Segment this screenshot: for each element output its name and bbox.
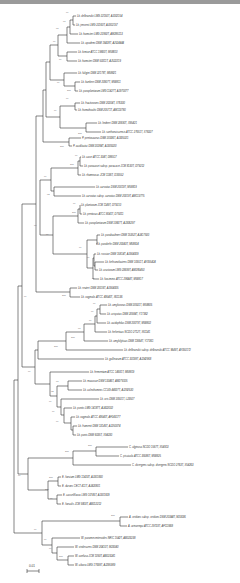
taxon-label: Lb. pentosus ATCC 8041T, D79211 xyxy=(83,213,124,216)
bootstrap-value: 100 xyxy=(78,132,82,134)
taxon-label: C. divergens subsp. divergens NCDO 2763T… xyxy=(132,464,193,467)
taxon-label: W. paramesenteroides NRIC 1542T, AB02323… xyxy=(81,537,135,540)
bootstrap-value: 97 xyxy=(56,380,58,382)
taxon-label: Lb. hamsteri LMG 22950T, AM285113 xyxy=(79,33,123,36)
taxon-label: P. pentosaceus DSM 20336T, AJ305321 xyxy=(82,137,128,140)
bootstrap-value: 93 xyxy=(47,193,49,195)
bootstrap-value: 99 xyxy=(53,40,55,42)
bootstrap-value: 99 xyxy=(73,202,75,204)
bootstrap-value: 99 xyxy=(93,302,95,304)
bootstrap-value: 100 xyxy=(65,450,69,452)
bootstrap-value: 99 xyxy=(34,224,36,226)
taxon-label: Lb. sanfranciscensis ATCC 27651T, X76327 xyxy=(102,131,153,134)
taxon-label: Lb. parabuchneri DSM 15352T, AJ417500 xyxy=(101,234,149,237)
taxon-label: Lb. kefiranofaciens DSM 10551T, AY055424 xyxy=(105,261,156,264)
taxon-label: Lb. oris DSM 20501T, L23507 xyxy=(100,398,134,401)
bootstrap-value: 99 xyxy=(87,256,89,258)
taxon-label: Lb. amylolyticus DSM 11664T, Y17361 xyxy=(109,340,153,343)
bootstrap-value: 100 xyxy=(45,488,49,490)
taxon-label: Lb. crispatus DSM 20584T, Y17362 xyxy=(107,313,148,316)
bootstrap-value: 99 xyxy=(49,547,51,549)
taxon-label: Lb. helveticus NCDO 2712T, X61141 xyxy=(108,331,150,334)
bootstrap-value: 98 xyxy=(56,27,58,29)
taxon-label: Lb. jensenii LMG 22160T, AJ002157 xyxy=(76,24,118,27)
bootstrap-value: 99 xyxy=(49,400,51,402)
bootstrap-value: 100 xyxy=(111,514,115,516)
taxon-label: Lb. delbrueckii LMG 22150T, AJ002154 xyxy=(77,15,122,18)
bootstrap-value: 99 xyxy=(44,538,46,540)
taxon-label: Lb. curvatus DSM 20019T, M58819 xyxy=(96,186,137,189)
bootstrap-value: 99 xyxy=(89,319,91,321)
bootstrap-value: 99 xyxy=(34,528,36,530)
bootstrap-value: 99 xyxy=(66,11,68,13)
bootstrap-value: 97 xyxy=(78,327,80,329)
taxon-label: Lb. curvatus subsp. curvatus DSM 20019T,… xyxy=(82,195,144,198)
taxon-label: Lb. delbrueckii subsp. delbrueckii ATCC … xyxy=(124,349,191,352)
taxon-label: Lb. fuligini DSM 22178T, M58821 xyxy=(78,72,116,75)
taxon-label: C. piscicola ATCC 35586T, M58825 xyxy=(120,455,161,458)
taxon-label: Lb. farciminis ATCC 29644T, M58817 xyxy=(100,278,143,281)
taxon-label: Lb. pontis LMG 14187T, AJ422032 xyxy=(73,407,113,410)
bootstrap-value: 100 xyxy=(71,336,75,338)
taxon-label: Lb. rhamnosus JCM 1136T, D16552 xyxy=(82,174,123,177)
bootstrap-value: 99 xyxy=(66,97,68,99)
bootstrap-value: 99 xyxy=(44,175,46,177)
bootstrap-value: 99 xyxy=(57,81,59,83)
bootstrap-value: 99 xyxy=(79,246,81,248)
taxon-label: Lb. fermentum ATCC 14931T, M58819 xyxy=(90,371,134,374)
scale-bar-label: 0.01 xyxy=(29,564,35,568)
taxon-label: Lb. lindneri DSM 20690T, X95421 xyxy=(98,122,137,125)
taxon-label: W. confusa JCM 1093T, AB023241 xyxy=(75,555,115,558)
bootstrap-value: 100 xyxy=(60,145,64,147)
taxon-label: Lb. amylovorus DSM 20531T, M58805 xyxy=(108,304,152,307)
taxon-label: Lb. crustorum LMG 23699T, AM285450 xyxy=(99,269,144,272)
taxon-label: Lb. vaginalis ATCC 49540T, AF243177 xyxy=(76,416,121,419)
bootstrap-value: 100 xyxy=(67,89,71,91)
taxon-label: Lb. coleohominis CCUG 44007T, AJ292530 xyxy=(83,389,133,392)
taxon-label: W. cibaria LMG 17699T, AJ295989 xyxy=(75,564,115,567)
taxon-label: E. faecalis JCM 5803T, AB012212 xyxy=(62,503,101,506)
bootstrap-value: 99 xyxy=(75,154,77,156)
bootstrap-value: 99 xyxy=(56,420,58,422)
taxon-label: P. acidilactici DSM 20284T, AJ305320 xyxy=(73,145,116,148)
taxon-label: Lb. mucosae DSM 13345T, AM279105 xyxy=(83,380,128,383)
bootstrap-value: 100 xyxy=(59,555,63,557)
taxon-label: E. durans CECT 411T, AJ420801 xyxy=(62,485,100,488)
taxon-label: A. urinaeequi ATCC 29723T, AF111668 xyxy=(128,525,173,528)
taxon-label: Lb. kimiae ATCC 19800T, M58810 xyxy=(78,51,117,54)
bootstrap-value: 99 xyxy=(91,310,93,312)
taxon-label: C. alginosa NCDO 1567T, X54913 xyxy=(129,446,169,449)
bootstrap-value: 99 xyxy=(28,370,30,372)
taxon-label: Lb. kunkeei DSM 20907T, M58811 xyxy=(81,81,121,84)
bootstrap-value: 99 xyxy=(92,277,94,279)
taxon-label: Lb. plantarum JCM 1149T, D79210 xyxy=(81,204,121,207)
bootstrap-value: 99 xyxy=(54,109,56,111)
taxon-label: Lb. parakefiri DSM 20043T, M58824 xyxy=(97,243,139,246)
bootstrap-value: 100 xyxy=(72,211,76,213)
taxon-label: Lb. gallinarum ATCC 33199T, AJ242968 xyxy=(105,358,151,361)
taxon-label: E. faecium LMG 11423T, AJ301830 xyxy=(62,476,103,479)
bootstrap-value: 100 xyxy=(49,476,53,478)
bootstrap-value: 97 xyxy=(63,20,65,22)
taxon-label: Lb. homohiochii DSM 20571T, AM113780 xyxy=(78,109,126,112)
bootstrap-value: 99 xyxy=(50,497,52,499)
bootstrap-value: 100 xyxy=(88,444,92,446)
bootstrap-value: 92 xyxy=(51,390,53,392)
bootstrap-value: 100 xyxy=(70,163,74,165)
bootstrap-value: 99 xyxy=(46,233,48,235)
taxon-label: Lb. rossiae DSM 15814T, AJ564009 xyxy=(97,253,138,256)
taxon-label: Lb. vaginalis ATCC 49540T, X61136 xyxy=(81,296,122,299)
taxon-label: A. viridans subsp. viridans DSM 20344T, … xyxy=(129,516,186,519)
taxon-label: Lb. casei ATCC 334T, D86517 xyxy=(82,156,117,159)
bootstrap-value: 100 xyxy=(54,345,58,347)
taxon-label: Lb. frumenti DSM 13145T, AJ250074 xyxy=(78,425,121,428)
taxon-label: Lb. acidophilus DSM 20079T, M58802 xyxy=(107,322,151,325)
taxon-label: Lb. paraplantarum DSM 10667T, AJ306297 xyxy=(85,222,135,225)
taxon-label: E. casseliflavus LMG 10745T, AJ301829 xyxy=(63,494,110,497)
taxon-label: W. viridescens DSM 20410T, M23040 xyxy=(75,546,118,549)
taxon-label: Lb. fructivorans DSM 20204T, X76330 xyxy=(81,102,125,105)
taxon-label: Lb. hamsteri DSM 50311T, AJ522219 xyxy=(78,60,121,63)
taxon-label: Lb. panis DSM 6035T, X94230 xyxy=(77,434,112,437)
taxon-label: Lb. paraplantarum LMG 11427T, AJ970077 xyxy=(79,90,129,93)
taxon-label: Lb. reuteri DSM 20016T, AJ564005 xyxy=(78,287,118,290)
